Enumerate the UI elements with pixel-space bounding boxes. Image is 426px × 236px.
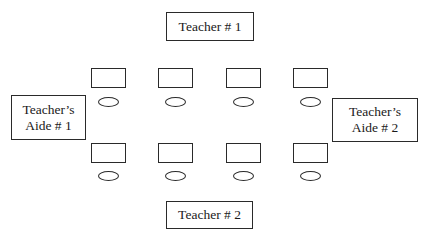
student-desk	[293, 143, 328, 163]
student-desk	[158, 68, 193, 88]
aide-1-label-line1: Teacher’s	[22, 102, 74, 118]
student-desk	[293, 68, 328, 88]
student-desk	[91, 68, 126, 88]
aide-2-label-line2: Aide # 2	[352, 120, 399, 136]
student-chair	[300, 171, 321, 181]
teachers-aide-2-box: Teacher’s Aide # 2	[332, 98, 418, 142]
student-chair	[165, 171, 186, 181]
student-chair	[98, 97, 119, 107]
student-chair	[233, 97, 254, 107]
aide-2-label-line1: Teacher’s	[349, 104, 401, 120]
student-chair	[165, 97, 186, 107]
student-chair	[233, 171, 254, 181]
student-chair	[300, 97, 321, 107]
teachers-aide-1-box: Teacher’s Aide # 1	[11, 95, 86, 140]
student-desk	[91, 143, 126, 163]
teacher-1-box: Teacher # 1	[166, 12, 254, 41]
student-desk	[226, 143, 261, 163]
student-chair	[98, 171, 119, 181]
teacher-2-label: Teacher # 2	[178, 207, 241, 223]
teacher-1-label: Teacher # 1	[179, 19, 242, 35]
student-desk	[226, 68, 261, 88]
aide-1-label-line2: Aide # 1	[25, 118, 72, 134]
student-desk	[158, 143, 193, 163]
teacher-2-box: Teacher # 2	[166, 201, 253, 229]
